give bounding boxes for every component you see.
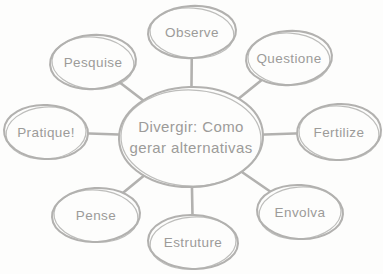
mindmap-canvas: Observe Questione Fertilize Envolva Estr… [0,0,383,274]
node-pense-label: Pense [76,208,116,223]
node-pense: Pense [51,186,142,245]
node-pesquise-label: Pesquise [64,55,123,70]
node-fertilize-label: Fertilize [314,125,365,140]
node-estruture-label: Estruture [164,235,222,250]
node-center-label-line2: gerar alternativas [129,139,252,156]
node-questione-label: Questione [256,51,321,66]
node-questione: Questione [244,28,334,88]
node-envolva: Envolva [256,183,345,242]
node-pratique: Pratique! [3,103,90,162]
node-observe-label: Observe [165,25,219,40]
node-envolva-label: Envolva [275,205,326,220]
mindmap-svg: Observe Questione Fertilize Envolva Estr… [0,0,383,274]
node-pesquise: Pesquise [48,32,138,92]
node-observe: Observe [147,4,238,61]
node-estruture: Estruture [147,213,239,271]
node-center-label-line1: Divergir: Como [138,118,244,135]
node-fertilize: Fertilize [296,102,383,163]
node-pratique-label: Pratique! [17,125,75,140]
